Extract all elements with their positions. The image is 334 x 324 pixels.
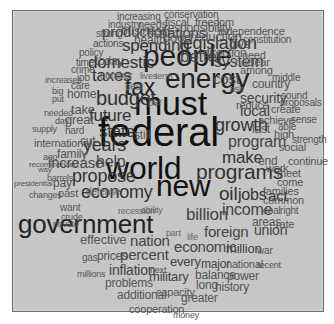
word-health: health: [134, 34, 166, 46]
word-past: past: [58, 188, 78, 199]
word-reduce: reduce: [236, 100, 268, 111]
word-millions: millions: [77, 270, 105, 279]
word-presidential: presidential: [14, 180, 53, 188]
word-private: private: [53, 220, 79, 229]
word-right: right: [280, 206, 298, 216]
word-make: make: [222, 149, 263, 166]
word-number: number: [100, 71, 133, 81]
word-rate: rate: [276, 219, 294, 230]
word-power: power: [227, 270, 259, 282]
word-supply: supply: [32, 125, 57, 134]
word-term: term: [155, 72, 172, 81]
word-prices: prices: [97, 250, 128, 262]
word-achieve: achieve: [258, 115, 295, 126]
word-war: war: [257, 246, 273, 256]
word-money: money: [173, 311, 199, 320]
word-coal: coal: [263, 206, 281, 216]
word-every: every: [170, 255, 201, 268]
word-middle: middle: [272, 73, 300, 83]
word-sound: sound: [281, 91, 307, 101]
word-cut: cut: [80, 135, 95, 147]
word-foreign: foreign: [204, 224, 248, 239]
word-common: common: [263, 195, 304, 206]
word-per: per: [148, 98, 162, 108]
word-sense: sense: [291, 115, 317, 125]
word-ask: ask: [230, 85, 243, 94]
word-part: part: [166, 229, 181, 238]
word-changes: changes: [29, 191, 62, 200]
word-recession: recession: [118, 207, 155, 216]
word-next: next: [150, 266, 166, 275]
word-continue: continue: [288, 156, 328, 167]
word-best: best: [125, 82, 143, 92]
word-conservation: conservation: [164, 10, 218, 20]
word-greater: greater: [181, 292, 218, 304]
word-recommended: recommended: [29, 161, 78, 169]
word-life: life: [187, 233, 198, 242]
word-today: today: [95, 55, 123, 67]
word-defense: defense: [86, 187, 120, 197]
word-gas: gas: [82, 253, 98, 263]
word-work: work: [266, 163, 288, 174]
word-effective: effective: [80, 233, 126, 246]
word-come: come: [277, 177, 303, 188]
word-put: put: [52, 95, 64, 104]
word-home: home: [67, 88, 96, 100]
word-recent: recent: [257, 261, 281, 270]
word-still: still: [134, 129, 150, 141]
word-future: future: [89, 107, 131, 124]
word-state: state: [99, 123, 135, 140]
word-strength: strength: [292, 135, 327, 145]
word-family: family: [57, 148, 87, 160]
